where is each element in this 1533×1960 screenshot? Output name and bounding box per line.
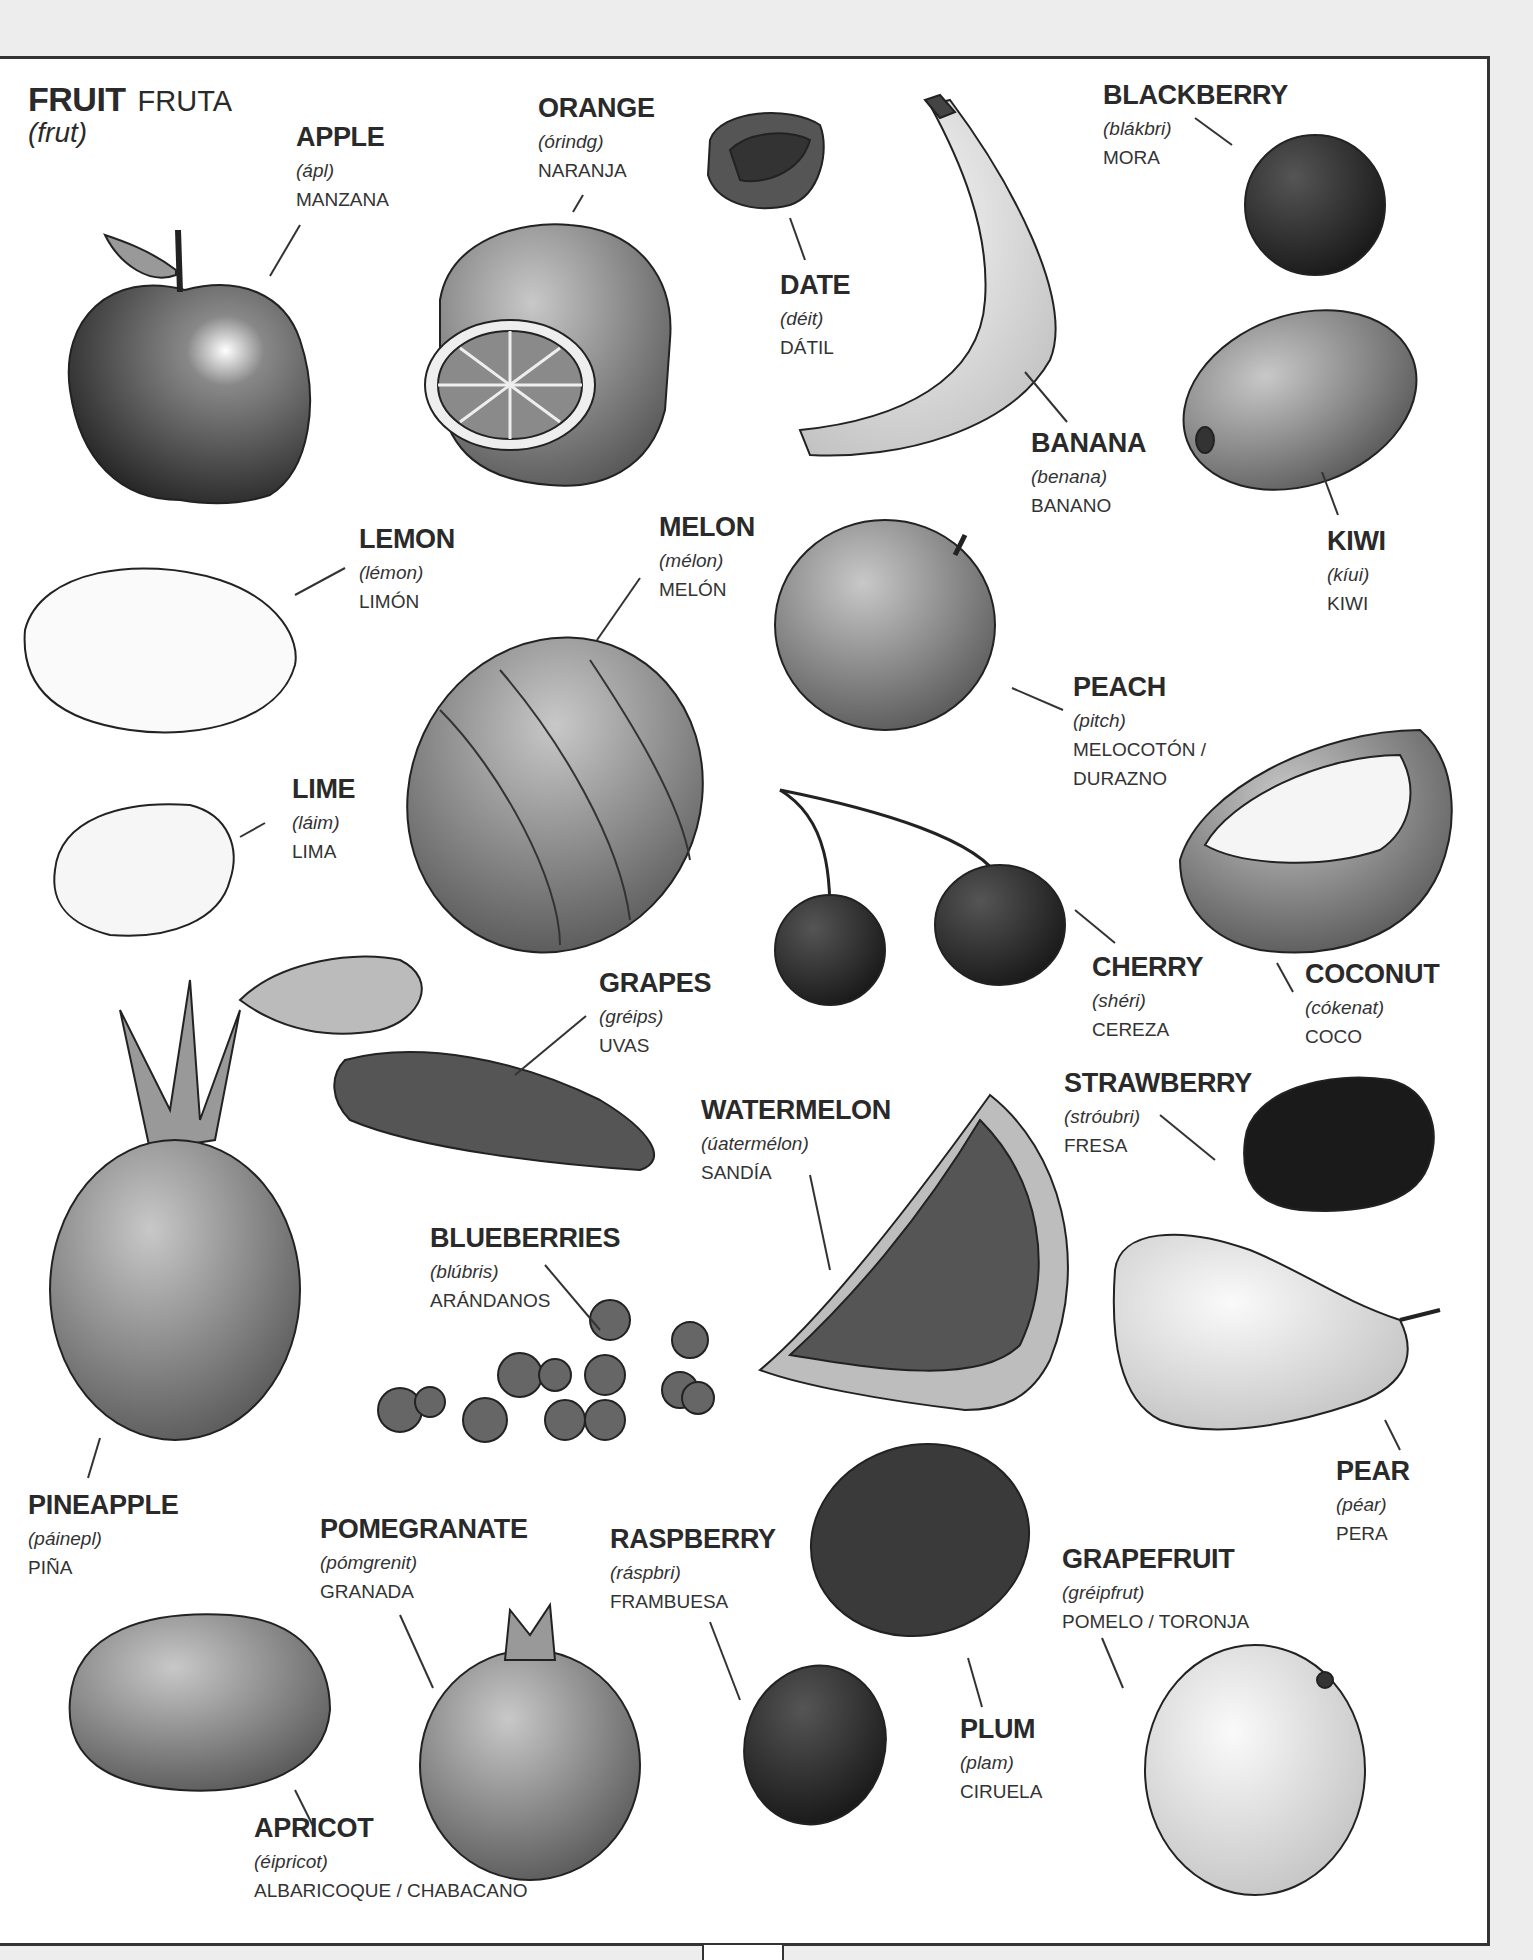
label-kiwi: KIWI(kíui)KIWI [1327,528,1386,613]
label-blueberries: BLUEBERRIES(blúbris)ARÁNDANOS [430,1225,620,1310]
label-pear: PEAR(péar)PERA [1336,1458,1410,1543]
label-apricot: APRICOT(éipricot)ALBARICOQUE / CHABACANO [254,1815,527,1900]
label-coconut: COCONUT(cókenat)COCO [1305,961,1439,1046]
coconut-illustration [1180,730,1452,952]
lemon-illustration [25,568,296,732]
title-pronunciation: (frut) [28,117,232,149]
label-lemon: LEMON(lémon)LIMÓN [359,526,455,611]
pineapple-illustration [50,980,300,1440]
peach-illustration [775,520,995,730]
blueberries-illustration [378,1300,714,1442]
grapes-illustration [240,956,654,1170]
title-english: FRUIT [28,80,126,118]
pear-illustration [1114,1235,1440,1430]
label-raspberry: RASPBERRY(ráspbri)FRAMBUESA [610,1526,776,1611]
strawberry-illustration [1244,1078,1434,1211]
label-watermelon: WATERMELON(úatermélon)SANDÍA [701,1097,891,1182]
label-banana: BANANA(benana)BANANO [1031,430,1146,515]
label-orange: ORANGE(órindg)NARANJA [538,95,655,180]
label-lime: LIME(láim)LIMA [292,776,355,861]
label-cherry: CHERRY(shéri)CEREZA [1092,954,1203,1039]
cherry-illustration [775,790,1065,1005]
grapefruit-illustration [1145,1645,1365,1895]
kiwi-illustration [1158,279,1442,521]
plum-illustration [789,1420,1051,1660]
label-grapes: GRAPES(gréips)UVAS [599,970,711,1055]
orange-illustration [425,224,670,485]
title-spanish: FRUTA [138,85,233,117]
raspberry-illustration [727,1650,904,1841]
page-title: FRUITFRUTA (frut) [28,80,232,149]
label-grapefruit: GRAPEFRUIT(gréipfrut)POMELO / TORONJA [1062,1546,1249,1631]
label-melon: MELON(mélon)MELÓN [659,514,755,599]
label-date: DATE(déit)DÁTIL [780,272,850,357]
lime-illustration [54,804,233,936]
melon-illustration [356,589,754,1002]
label-pineapple: PINEAPPLE(páinepl)PIÑA [28,1492,178,1577]
label-peach: PEACH(pitch)MELOCOTÓN /DURAZNO [1073,674,1206,788]
label-blackberry: BLACKBERRY(blákbri)MORA [1103,82,1288,167]
fruit-illustrations [0,0,1533,1960]
label-pomegranate: POMEGRANATE(pómgrenit)GRANADA [320,1516,528,1601]
label-plum: PLUM(plam)CIRUELA [960,1716,1042,1801]
label-apple: APPLE(ápl)MANZANA [296,124,389,209]
date-illustration [708,113,824,208]
label-strawberry: STRAWBERRY(stróubri)FRESA [1064,1070,1252,1155]
apricot-illustration [70,1614,330,1790]
